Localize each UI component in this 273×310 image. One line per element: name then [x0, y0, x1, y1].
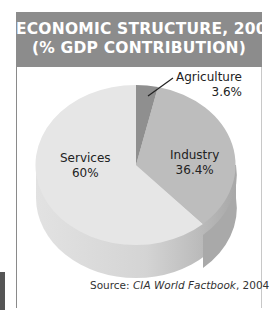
- label-services: Services 60%: [60, 151, 111, 181]
- source-note: Source: CIA World Factbook, 2004: [90, 279, 269, 291]
- pie-chart: [0, 0, 273, 310]
- label-industry: Industry 36.4%: [170, 148, 219, 178]
- source-publication: CIA World Factbook: [133, 279, 236, 291]
- label-agriculture: Agriculture 3.6%: [176, 70, 242, 100]
